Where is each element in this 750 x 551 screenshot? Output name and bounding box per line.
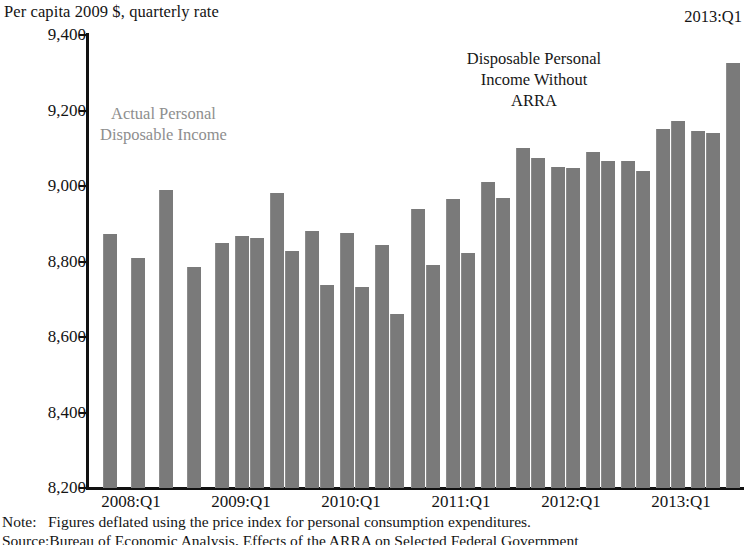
bar — [601, 161, 615, 488]
bar — [636, 171, 650, 488]
bar — [320, 285, 334, 488]
bar — [187, 267, 201, 488]
bar — [375, 245, 389, 488]
bar — [411, 209, 425, 488]
y-axis-tick-label: 9,400 — [0, 26, 86, 43]
note-text: Figures deflated using the price index f… — [48, 513, 531, 530]
bar — [726, 63, 740, 488]
y-axis-tick-value: 9,200 — [12, 102, 86, 119]
bar — [131, 258, 145, 488]
bar — [159, 190, 173, 488]
y-axis-tick-value: 8,400 — [12, 404, 86, 421]
annotation-without-line1: Disposable Personal — [424, 48, 644, 69]
y-axis-tick-value: 8,800 — [12, 253, 86, 270]
bar — [426, 265, 440, 488]
source-text: Bureau of Economic Analysis, Effects of … — [49, 532, 578, 545]
bar — [531, 158, 545, 488]
x-axis-tick-label: 2012:Q1 — [541, 491, 601, 513]
x-axis-tick-label: 2010:Q1 — [321, 491, 381, 513]
bar — [250, 238, 264, 488]
bar — [706, 133, 720, 488]
bar — [461, 253, 475, 488]
y-axis-tick-label: 8,400 — [0, 404, 86, 421]
y-axis-tick-value: 8,600 — [12, 328, 86, 345]
annotation-actual-income: Actual Personal Disposable Income — [100, 103, 227, 145]
bar — [656, 129, 670, 488]
note-lead: Note: — [2, 513, 48, 532]
y-axis-units-label: Per capita 2009 $, quarterly rate — [4, 2, 219, 22]
bar — [566, 168, 580, 488]
annotation-actual-line2: Disposable Income — [100, 124, 227, 145]
annotation-actual-line1: Actual Personal — [100, 103, 227, 124]
bar — [235, 236, 249, 488]
bar — [103, 234, 117, 488]
bar — [270, 193, 284, 488]
annotation-without-arra: Disposable Personal Income Without ARRA — [424, 48, 644, 111]
bar — [586, 152, 600, 488]
y-axis-tick-value: 9,000 — [12, 177, 86, 194]
last-period-label: 2013:Q1 — [684, 7, 742, 27]
y-axis-tick-value: 9,400 — [12, 26, 86, 43]
bar — [285, 251, 299, 488]
source-line: Source:Bureau of Economic Analysis, Effe… — [2, 532, 750, 545]
bar — [691, 131, 705, 488]
bar — [481, 182, 495, 488]
annotation-without-line3: ARRA — [424, 90, 644, 111]
x-axis-tick-label: 2008:Q1 — [101, 491, 161, 513]
bar — [305, 231, 319, 488]
x-axis-tick-label: 2011:Q1 — [432, 491, 491, 513]
source-lead: Source: — [2, 532, 49, 545]
bar — [551, 167, 565, 488]
bar — [340, 233, 354, 488]
y-axis-tick-label: 9,200 — [0, 102, 86, 119]
bar — [671, 121, 685, 488]
note-line: Note:Figures deflated using the price in… — [2, 513, 750, 532]
annotation-without-line2: Income Without — [424, 69, 644, 90]
y-axis-tick-label: 8,600 — [0, 328, 86, 345]
y-axis-tick-label: 8,800 — [0, 253, 86, 270]
y-axis-tick-label: 9,000 — [0, 177, 86, 194]
bar — [496, 198, 510, 488]
bar — [355, 287, 369, 488]
bar — [215, 243, 229, 488]
bar — [621, 161, 635, 488]
footnotes: Note:Figures deflated using the price in… — [2, 513, 750, 545]
chart-figure: Per capita 2009 $, quarterly rate 2013:Q… — [0, 0, 750, 551]
bar — [446, 199, 460, 488]
bar — [390, 314, 404, 488]
x-axis-tick-label: 2009:Q1 — [211, 491, 271, 513]
x-axis-tick-label: 2013:Q1 — [651, 491, 711, 513]
bar — [516, 148, 530, 488]
